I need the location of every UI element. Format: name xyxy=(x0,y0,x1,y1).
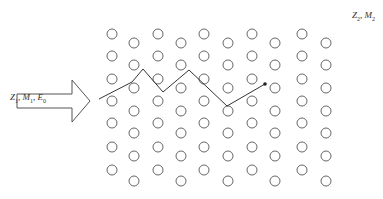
target-atom xyxy=(153,29,163,39)
target-atom xyxy=(270,151,280,161)
target-material-label: Z2, M2 xyxy=(352,10,375,22)
target-atom xyxy=(270,128,280,138)
target-atom xyxy=(223,106,233,116)
target-atom xyxy=(199,142,209,152)
target-atom xyxy=(176,38,186,48)
target-atom xyxy=(297,165,307,175)
target-atom xyxy=(199,118,209,128)
target-atom xyxy=(247,118,257,128)
target-atom xyxy=(199,165,209,175)
target-atom xyxy=(247,29,257,39)
target-atom xyxy=(199,51,209,61)
target-atom xyxy=(129,106,139,116)
target-atom xyxy=(270,60,280,70)
target-atom xyxy=(107,165,117,175)
target-atom xyxy=(199,74,209,84)
target-atom xyxy=(321,83,331,93)
target-atom xyxy=(129,38,139,48)
target-atom xyxy=(321,151,331,161)
target-atom xyxy=(129,83,139,93)
ion-implantation-diagram xyxy=(0,0,383,199)
target-atom xyxy=(247,165,257,175)
target-atom xyxy=(176,128,186,138)
target-atom xyxy=(176,83,186,93)
target-atom xyxy=(223,151,233,161)
target-atom xyxy=(223,83,233,93)
target-atom xyxy=(176,60,186,70)
target-atom xyxy=(270,38,280,48)
target-atom xyxy=(270,176,280,186)
target-atom xyxy=(223,38,233,48)
target-atom xyxy=(176,151,186,161)
target-atom xyxy=(107,142,117,152)
target-atom xyxy=(297,118,307,128)
target-atom xyxy=(247,96,257,106)
target-atom xyxy=(153,51,163,61)
target-atom xyxy=(247,142,257,152)
target-atom xyxy=(176,106,186,116)
target-atom xyxy=(107,74,117,84)
target-atom xyxy=(321,176,331,186)
target-atom xyxy=(297,74,307,84)
target-atom xyxy=(223,176,233,186)
target-atom xyxy=(321,128,331,138)
target-atom xyxy=(153,165,163,175)
target-atom xyxy=(129,151,139,161)
target-atom xyxy=(223,128,233,138)
target-atom xyxy=(107,51,117,61)
target-atom xyxy=(107,96,117,106)
target-atom-lattice xyxy=(107,29,331,186)
ion-stop-point xyxy=(263,82,267,86)
ion-beam-label: Z1, M1, E0 xyxy=(10,92,46,104)
target-atom xyxy=(129,60,139,70)
target-atom xyxy=(297,96,307,106)
target-atom xyxy=(176,176,186,186)
target-atom xyxy=(321,106,331,116)
target-atom xyxy=(129,176,139,186)
target-atom xyxy=(153,142,163,152)
target-atom xyxy=(129,128,139,138)
target-atom xyxy=(153,118,163,128)
target-atom xyxy=(270,106,280,116)
target-atom xyxy=(153,96,163,106)
target-atom xyxy=(223,60,233,70)
target-atom xyxy=(321,38,331,48)
target-atom xyxy=(297,142,307,152)
target-atom xyxy=(297,51,307,61)
target-atom xyxy=(107,118,117,128)
target-atom xyxy=(247,51,257,61)
target-atom xyxy=(247,74,257,84)
target-atom xyxy=(199,29,209,39)
target-atom xyxy=(107,29,117,39)
target-atom xyxy=(270,83,280,93)
ion-trajectory-path xyxy=(99,69,265,106)
target-atom xyxy=(199,96,209,106)
target-atom xyxy=(297,29,307,39)
target-atom xyxy=(321,60,331,70)
